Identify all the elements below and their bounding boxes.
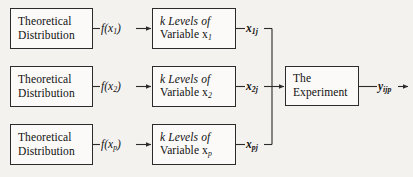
- row-output-label-1: x1j: [246, 22, 258, 36]
- levels-line2-text: Variable x: [160, 86, 208, 98]
- response-var-sub: ijp: [383, 85, 391, 94]
- levels-label-line1: k Levels of: [160, 15, 210, 29]
- levels-label-line1: k Levels of: [160, 73, 210, 87]
- transfer-fn-text: f(x: [101, 138, 113, 150]
- source-label-line1: Theoretical: [18, 15, 71, 29]
- levels-label-line2: Variable x1: [160, 28, 212, 42]
- output-var-sub: 2j: [252, 85, 258, 94]
- flow-diagram: Theoretical Distribution f(x1) k Levels …: [0, 0, 413, 177]
- levels-line2-text: Variable x: [160, 28, 208, 40]
- experiment-label-line2: Experiment: [293, 86, 348, 100]
- transfer-function-label-2: f(x2): [101, 80, 121, 94]
- transfer-fn-close: ): [117, 138, 121, 150]
- transfer-fn-text: f(x: [101, 80, 113, 92]
- transfer-fn-close: ): [117, 80, 121, 92]
- levels-line1-text: k Levels of: [160, 15, 210, 27]
- row-output-label-3: xpj: [246, 138, 258, 152]
- levels-line1-text: k Levels of: [160, 131, 210, 143]
- levels-label-line2: Variable xp: [160, 144, 212, 158]
- k-levels-box-3: k Levels of Variable xp: [152, 124, 236, 165]
- experiment-box: The Experiment: [285, 66, 359, 106]
- levels-line1-text: k Levels of: [160, 73, 210, 85]
- levels-label-line1: k Levels of: [160, 131, 210, 145]
- theoretical-distribution-box-1: Theoretical Distribution: [10, 8, 93, 49]
- transfer-function-label-3: f(xp): [101, 138, 121, 152]
- response-variable-label: yijp: [378, 80, 391, 94]
- source-label-line1: Theoretical: [18, 73, 71, 87]
- row-output-label-2: x2j: [246, 80, 258, 94]
- levels-line2-sub: p: [208, 149, 212, 158]
- experiment-label-line1: The: [293, 72, 311, 86]
- source-label-line2: Distribution: [18, 87, 75, 101]
- theoretical-distribution-box-3: Theoretical Distribution: [10, 124, 93, 165]
- transfer-fn-text: f(x: [101, 22, 113, 34]
- transfer-fn-close: ): [117, 22, 121, 34]
- output-var-sub: 1j: [252, 27, 258, 36]
- source-label-line2: Distribution: [18, 29, 75, 43]
- levels-label-line2: Variable x2: [160, 86, 212, 100]
- source-label-line1: Theoretical: [18, 131, 71, 145]
- theoretical-distribution-box-2: Theoretical Distribution: [10, 66, 93, 107]
- k-levels-box-1: k Levels of Variable x1: [152, 8, 236, 49]
- k-levels-box-2: k Levels of Variable x2: [152, 66, 236, 107]
- output-var-sub: pj: [252, 143, 258, 152]
- levels-line2-text: Variable x: [160, 144, 208, 156]
- levels-line2-sub: 2: [208, 91, 212, 100]
- source-label-line2: Distribution: [18, 145, 75, 159]
- transfer-function-label-1: f(x1): [101, 22, 121, 36]
- levels-line2-sub: 1: [208, 33, 212, 42]
